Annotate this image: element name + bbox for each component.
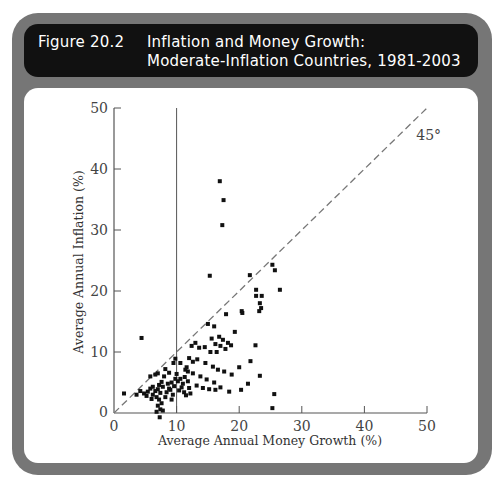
- data-point: [220, 223, 224, 227]
- y-tick-label: 40: [90, 161, 108, 177]
- data-point: [206, 322, 210, 326]
- data-point: [222, 198, 226, 202]
- data-point: [193, 341, 197, 345]
- data-point: [254, 288, 258, 292]
- data-point: [195, 357, 199, 361]
- data-point: [272, 392, 276, 396]
- data-point: [195, 384, 199, 388]
- y-tick-label: 20: [90, 283, 108, 299]
- x-tick-label: 50: [418, 418, 436, 434]
- data-point: [186, 379, 190, 383]
- data-point: [162, 374, 166, 378]
- 45-degree-label: 45°: [416, 127, 441, 143]
- data-point: [224, 312, 228, 316]
- data-point: [218, 179, 222, 183]
- data-point: [163, 395, 167, 399]
- data-point: [226, 341, 230, 345]
- y-tick-label: 30: [90, 222, 108, 238]
- data-point: [175, 372, 179, 376]
- data-point: [157, 383, 161, 387]
- data-point: [259, 306, 263, 310]
- data-point: [254, 294, 258, 298]
- 45-degree-line: [114, 108, 427, 413]
- data-point: [278, 288, 282, 292]
- data-point: [183, 368, 187, 372]
- data-point: [183, 375, 187, 379]
- data-point: [178, 377, 182, 381]
- data-point: [146, 390, 150, 394]
- data-point: [156, 404, 160, 408]
- data-point: [153, 389, 157, 393]
- data-point: [156, 371, 160, 375]
- data-point: [203, 361, 207, 365]
- data-point: [205, 377, 209, 381]
- data-point: [260, 294, 264, 298]
- data-point: [258, 301, 262, 305]
- data-point: [197, 346, 201, 350]
- x-tick-label: 30: [293, 418, 311, 434]
- data-point: [150, 397, 154, 401]
- x-tick-label: 0: [110, 418, 119, 434]
- data-point: [158, 391, 162, 395]
- data-point: [215, 350, 219, 354]
- data-point: [184, 393, 188, 397]
- data-point: [239, 388, 243, 392]
- data-point: [178, 361, 182, 365]
- data-point: [167, 371, 171, 375]
- data-point: [212, 381, 216, 385]
- data-point: [160, 401, 164, 405]
- data-point: [122, 391, 126, 395]
- data-point: [142, 391, 146, 395]
- y-tick-label: 0: [99, 404, 108, 420]
- data-point: [187, 386, 191, 390]
- data-point: [165, 390, 169, 394]
- data-point: [167, 387, 171, 391]
- data-point: [173, 377, 177, 381]
- data-point: [181, 382, 185, 386]
- data-point: [237, 365, 241, 369]
- data-point: [203, 345, 207, 349]
- data-point: [223, 347, 227, 351]
- data-point: [217, 335, 221, 339]
- data-point: [273, 268, 277, 272]
- data-points: [122, 179, 282, 419]
- data-point: [170, 398, 174, 402]
- data-point: [161, 385, 165, 389]
- data-point: [151, 393, 155, 397]
- data-point: [208, 274, 212, 278]
- data-point: [218, 385, 222, 389]
- x-axis-label: Average Annual Money Growth (%): [157, 433, 382, 448]
- data-point: [138, 389, 142, 393]
- data-point: [191, 360, 195, 364]
- y-tick-label: 50: [90, 100, 108, 116]
- data-point: [233, 330, 237, 334]
- data-point: [227, 390, 231, 394]
- data-point: [248, 359, 252, 363]
- data-point: [201, 386, 205, 390]
- data-point: [240, 311, 244, 315]
- data-point: [216, 368, 220, 372]
- data-point: [207, 387, 211, 391]
- data-point: [171, 393, 175, 397]
- data-point: [163, 367, 167, 371]
- data-point: [148, 374, 152, 378]
- data-point: [213, 342, 217, 346]
- data-point: [210, 337, 214, 341]
- data-point: [157, 398, 161, 402]
- x-tick-label: 40: [355, 418, 373, 434]
- reference-lines: [114, 108, 427, 413]
- x-tick-label: 20: [230, 418, 248, 434]
- y-axis-label: Average Annual Inflation (%): [71, 170, 86, 354]
- data-point: [166, 382, 170, 386]
- data-point: [248, 273, 252, 277]
- data-point: [155, 410, 159, 414]
- data-point: [170, 381, 174, 385]
- data-point: [177, 388, 181, 392]
- data-point: [270, 406, 274, 410]
- data-point: [171, 361, 175, 365]
- data-point: [188, 391, 192, 395]
- data-point: [135, 393, 139, 397]
- data-point: [258, 374, 262, 378]
- data-point: [221, 338, 225, 342]
- data-point: [222, 370, 226, 374]
